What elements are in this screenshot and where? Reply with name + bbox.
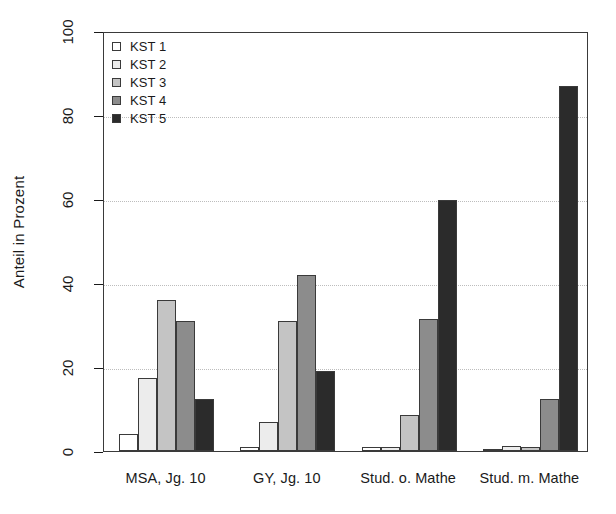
x-tick-label: Stud. o. Mathe <box>338 470 478 486</box>
y-tick-label: 80 <box>59 96 77 136</box>
bar <box>240 447 259 451</box>
bar <box>119 434 138 451</box>
y-tick-label: 0 <box>59 432 77 472</box>
legend-label: KST 1 <box>130 39 166 54</box>
y-tick-mark <box>94 368 103 369</box>
bar <box>195 399 214 452</box>
legend-label: KST 2 <box>130 57 166 72</box>
legend: KST 1KST 2KST 3KST 4KST 5 <box>112 38 222 128</box>
bar <box>419 319 438 451</box>
y-tick-label: 100 <box>59 12 77 52</box>
bar <box>278 321 297 451</box>
legend-label: KST 3 <box>130 75 166 90</box>
y-tick-mark <box>94 452 103 453</box>
bar <box>157 300 176 451</box>
legend-label: KST 5 <box>130 111 166 126</box>
bar <box>176 321 195 451</box>
legend-item: KST 3 <box>112 74 222 90</box>
y-tick-mark <box>94 32 103 33</box>
y-tick-mark <box>94 200 103 201</box>
bar <box>362 447 381 451</box>
y-tick-mark <box>94 284 103 285</box>
y-tick-label: 20 <box>59 348 77 388</box>
bar <box>381 447 400 451</box>
bar <box>559 86 578 451</box>
bar <box>540 399 559 452</box>
legend-item: KST 2 <box>112 56 222 72</box>
y-tick-label: 60 <box>59 180 77 220</box>
legend-swatch-icon <box>112 60 121 69</box>
bar <box>502 446 521 451</box>
x-tick-label: GY, Jg. 10 <box>217 470 357 486</box>
legend-label: KST 4 <box>130 93 166 108</box>
bar <box>259 422 278 451</box>
y-tick-label: 40 <box>59 264 77 304</box>
y-axis-title: Anteil in Prozent <box>10 12 30 452</box>
x-tick-label: MSA, Jg. 10 <box>96 470 236 486</box>
legend-swatch-icon <box>112 96 121 105</box>
bar <box>297 275 316 451</box>
bar-chart: Anteil in Prozent 020406080100 KST 1KST … <box>0 0 616 514</box>
bar <box>521 447 540 451</box>
legend-item: KST 5 <box>112 110 222 126</box>
bar <box>316 371 335 451</box>
bar <box>438 200 457 451</box>
legend-item: KST 4 <box>112 92 222 108</box>
legend-swatch-icon <box>112 78 121 87</box>
bar <box>138 378 157 452</box>
x-tick-label: Stud. m. Mathe <box>459 470 599 486</box>
bar <box>483 449 502 451</box>
y-tick-mark <box>94 116 103 117</box>
legend-swatch-icon <box>112 114 121 123</box>
bar <box>400 415 419 451</box>
legend-item: KST 1 <box>112 38 222 54</box>
legend-swatch-icon <box>112 42 121 51</box>
